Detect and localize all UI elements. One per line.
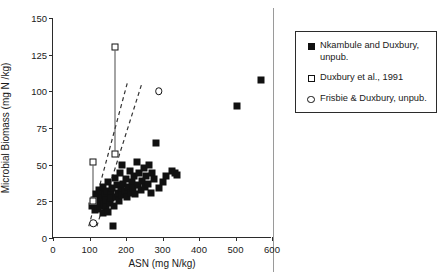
plot-canvas — [53, 18, 272, 238]
x-axis-tick — [163, 237, 164, 241]
x-axis-tick — [272, 237, 273, 241]
x-axis-tick-label: 100 — [82, 244, 98, 255]
data-point-filled-square — [146, 161, 153, 168]
x-axis-tick-label: 300 — [155, 244, 171, 255]
x-axis-tick-label: 400 — [191, 244, 207, 255]
y-axis-tick-label: 50 — [36, 159, 47, 170]
error-bar — [115, 47, 116, 154]
x-axis-tick-label: 200 — [118, 244, 134, 255]
x-axis-tick — [126, 237, 127, 241]
x-axis-tick — [53, 237, 54, 241]
y-axis-tick — [49, 165, 53, 166]
open-square-icon — [308, 75, 315, 82]
y-axis-tick-label: 25 — [36, 196, 47, 207]
y-axis-tick-label: 0 — [42, 233, 47, 244]
legend-key-wrap — [302, 72, 320, 82]
y-axis-tick — [49, 55, 53, 56]
filled-square-icon — [308, 43, 315, 50]
data-point-filled-square — [174, 171, 181, 178]
data-point-open-square — [112, 44, 119, 51]
legend-key-wrap — [302, 93, 320, 104]
y-axis-tick — [49, 91, 53, 92]
x-axis-title: ASN (mg N/kg) — [128, 258, 195, 269]
x-axis-tick — [236, 237, 237, 241]
legend-entry[interactable]: Duxbury et al., 1991 — [302, 72, 429, 84]
open-circle-icon — [307, 96, 315, 104]
x-axis-tick — [90, 237, 91, 241]
y-axis-tick — [49, 128, 53, 129]
x-axis-tick — [199, 237, 200, 241]
data-point-filled-square — [258, 76, 265, 83]
y-axis-tick — [49, 201, 53, 202]
y-axis-tick-label: 125 — [31, 49, 47, 60]
y-axis-tick-label: 100 — [31, 86, 47, 97]
data-point-open-circle — [89, 220, 97, 228]
x-axis-tick-label: 500 — [228, 244, 244, 255]
data-point-filled-square — [119, 161, 126, 168]
x-axis-tick-label: 600 — [264, 244, 280, 255]
data-point-open-square — [112, 151, 119, 158]
data-point-open-square — [90, 198, 97, 205]
data-point-open-circle — [155, 88, 163, 96]
panel-divider — [273, 8, 274, 272]
trend-lines — [53, 18, 272, 238]
legend-entry-label: Frisbie & Duxbury, unpub. — [320, 93, 427, 105]
data-point-filled-square — [150, 176, 157, 183]
chart-legend: Nkambule and Duxbury, unpub.Duxbury et a… — [295, 31, 437, 113]
y-axis-title: Microbial Biomass (mg N /kg) — [0, 63, 11, 194]
data-point-open-square — [90, 158, 97, 165]
data-point-filled-square — [152, 139, 159, 146]
x-axis-tick-label: 0 — [50, 244, 55, 255]
legend-key-wrap — [302, 40, 320, 50]
legend-entry-label: Nkambule and Duxbury, unpub. — [320, 40, 429, 63]
y-axis-tick-label: 75 — [36, 123, 47, 134]
scatter-plot-figure: Microbial Biomass (mg N /kg) ASN (mg N/k… — [0, 0, 448, 280]
plot-area: 02550751001251500100200300400500600 — [52, 18, 271, 238]
legend-entry[interactable]: Frisbie & Duxbury, unpub. — [302, 93, 429, 105]
data-point-filled-square — [110, 223, 117, 230]
legend-entry-label: Duxbury et al., 1991 — [320, 72, 403, 84]
y-axis-tick-label: 150 — [31, 13, 47, 24]
y-axis-tick — [49, 18, 53, 19]
data-point-filled-square — [147, 189, 154, 196]
legend-entry[interactable]: Nkambule and Duxbury, unpub. — [302, 40, 429, 63]
data-point-filled-square — [234, 103, 241, 110]
